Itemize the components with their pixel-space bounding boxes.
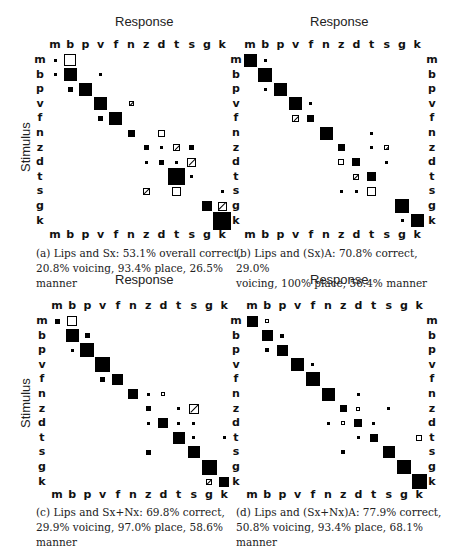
row-label-right: f <box>425 373 439 385</box>
row-label: k <box>229 476 243 488</box>
caption-line: manner <box>236 535 451 550</box>
column-label-top: v <box>291 300 305 312</box>
column-label-top: d <box>351 300 365 312</box>
confusion-cell-z-s <box>387 407 390 410</box>
confusion-cell-t-t <box>370 434 378 442</box>
row-label: f <box>229 373 243 385</box>
row-label-right: t <box>425 432 439 444</box>
confusion-cell-f-f <box>306 372 320 386</box>
column-label-bottom: m <box>245 489 259 501</box>
confusion-cell-k-k <box>412 474 427 489</box>
row-label: b <box>229 330 243 342</box>
row-label-right: z <box>425 403 439 415</box>
confusion-cell-v-v <box>291 358 304 371</box>
column-label-bottom: t <box>367 489 381 501</box>
row-label: d <box>229 417 243 429</box>
row-label-right: v <box>425 359 439 371</box>
column-label-top: z <box>336 300 350 312</box>
row-label-right: m <box>425 315 439 327</box>
confusion-cell-d-n <box>327 422 330 425</box>
row-label: v <box>229 359 243 371</box>
confusion-cell-n-n <box>322 388 335 401</box>
column-label-bottom: p <box>275 489 289 501</box>
row-label: t <box>229 432 243 444</box>
row-label: p <box>229 344 243 356</box>
column-label-bottom: n <box>321 489 335 501</box>
column-label-top: f <box>306 300 320 312</box>
confusion-cell-z-z <box>340 405 347 412</box>
row-label: n <box>229 388 243 400</box>
column-label-bottom: d <box>351 489 365 501</box>
confusion-cell-p-p <box>277 345 288 356</box>
row-label: z <box>229 403 243 415</box>
column-label-bottom: z <box>336 489 350 501</box>
confusion-cell-d-t <box>372 422 375 425</box>
column-label-bottom: s <box>382 489 396 501</box>
row-label: m <box>229 315 243 327</box>
column-label-top: t <box>367 300 381 312</box>
row-label: s <box>229 446 243 458</box>
confusion-cell-b-p <box>280 334 284 338</box>
row-label-right: n <box>425 388 439 400</box>
column-label-top: n <box>321 300 335 312</box>
confusion-cell-t-k <box>416 435 422 441</box>
response-axis-title: Response <box>310 272 369 287</box>
column-label-bottom: g <box>397 489 411 501</box>
row-label-right: k <box>425 476 439 488</box>
row-label-right: p <box>425 344 439 356</box>
row-label-right: g <box>425 461 439 473</box>
confusion-cell-d-z <box>341 421 345 425</box>
panel-caption: (d) Lips and (Sx+Nx)A: 77.9% correct,50.… <box>236 505 451 550</box>
column-label-bottom: f <box>306 489 320 501</box>
confusion-cell-s-z <box>341 450 345 454</box>
caption-line: 50.8% voicing, 93.4% place, 68.1% <box>236 520 451 535</box>
confusion-cell-v-f <box>311 363 314 366</box>
row-label-right: d <box>425 417 439 429</box>
confusion-matrix-panel-d: Responsemmbbppvvffnnzzddttssggkkmmbbppvv… <box>0 0 455 551</box>
confusion-cell-m-m <box>247 316 258 327</box>
row-label: g <box>229 461 243 473</box>
row-label-right: s <box>425 446 439 458</box>
column-label-top: b <box>260 300 274 312</box>
column-label-top: k <box>412 300 426 312</box>
confusion-cell-b-b <box>262 330 273 341</box>
confusion-cell-s-s <box>383 446 395 458</box>
caption-line: (d) Lips and (Sx+Nx)A: 77.9% correct, <box>236 505 451 520</box>
confusion-cell-d-d <box>354 419 362 427</box>
confusion-cell-z-d <box>356 407 360 411</box>
column-label-top: m <box>245 300 259 312</box>
confusion-cell-t-d <box>357 436 360 439</box>
column-label-top: p <box>275 300 289 312</box>
confusion-cell-g-g <box>397 460 411 474</box>
column-label-bottom: k <box>412 489 426 501</box>
confusion-cell-n-d <box>357 393 360 396</box>
column-label-top: g <box>397 300 411 312</box>
column-label-bottom: b <box>260 489 274 501</box>
column-label-top: s <box>382 300 396 312</box>
row-label-right: b <box>425 330 439 342</box>
confusion-cell-m-b <box>265 319 269 323</box>
confusion-cell-p-b <box>265 348 269 352</box>
column-label-bottom: v <box>291 489 305 501</box>
